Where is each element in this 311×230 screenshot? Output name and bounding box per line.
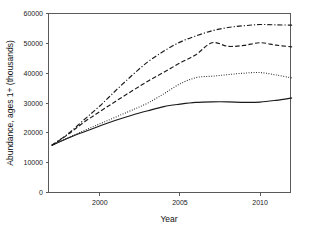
- y-axis-ticks: 0100002000030000400005000060000: [24, 10, 49, 196]
- x-axis-title: Year: [160, 214, 177, 224]
- x-tick-label: 2005: [172, 199, 188, 206]
- x-tick-label: 2010: [252, 199, 268, 206]
- y-axis-title: Abundance, ages 1+ (thousands): [5, 40, 15, 166]
- y-tick-label: 60000: [24, 10, 44, 17]
- y-tick-label: 20000: [24, 129, 44, 136]
- chart-container: 0100002000030000400005000060000 20002005…: [0, 0, 311, 230]
- series-dotted: [52, 72, 292, 145]
- y-tick-label: 30000: [24, 100, 44, 107]
- series-layer: [52, 25, 292, 146]
- line-chart: 0100002000030000400005000060000 20002005…: [0, 0, 311, 230]
- y-tick-label: 10000: [24, 159, 44, 166]
- series-solid-lowest: [52, 98, 292, 145]
- x-axis-ticks: 200020052010: [92, 193, 268, 206]
- y-tick-label: 40000: [24, 70, 44, 77]
- y-tick-label: 50000: [24, 40, 44, 47]
- plot-frame: [49, 14, 291, 193]
- x-tick-label: 2000: [92, 199, 108, 206]
- y-tick-label: 0: [39, 189, 43, 196]
